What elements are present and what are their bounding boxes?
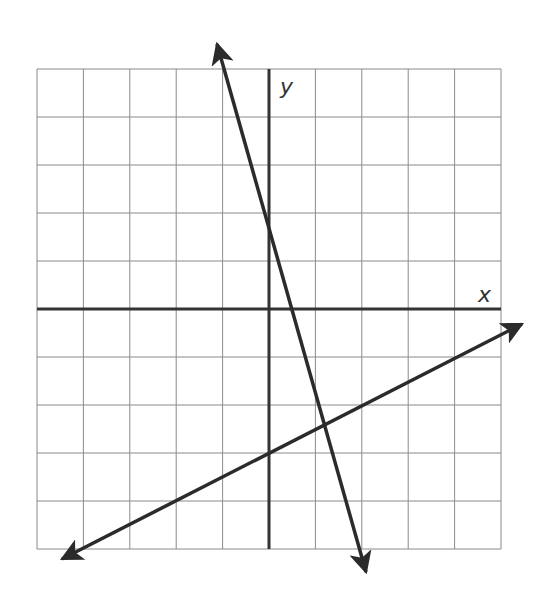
coordinate-plane — [0, 0, 548, 611]
shallow-line — [62, 324, 522, 559]
y-axis-label: y — [280, 76, 293, 98]
x-axis-label: x — [478, 284, 491, 306]
